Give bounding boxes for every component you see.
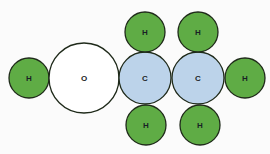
atom-label: H [195, 28, 201, 37]
atom-h-right: H [225, 58, 265, 98]
atom-label: H [242, 74, 248, 83]
atom-h-c2-bottom: H [180, 105, 220, 145]
atom-c2: C [172, 52, 224, 104]
atom-label: O [81, 74, 87, 83]
atom-label: H [26, 74, 32, 83]
atom-label: C [142, 74, 148, 83]
atom-h-c2-top: H [178, 12, 218, 52]
atom-h-left: H [9, 58, 49, 98]
atom-h-c1-bottom: H [126, 105, 166, 145]
atom-label: H [142, 28, 148, 37]
atom-label: H [197, 121, 203, 130]
atom-o: O [49, 43, 119, 113]
molecule-diagram: HOCCHHHHH [0, 0, 270, 154]
atom-label: C [195, 74, 201, 83]
atom-h-c1-top: H [125, 12, 165, 52]
ethanol-space-filling-model: HOCCHHHHH [0, 0, 270, 154]
atom-label: H [143, 121, 149, 130]
atom-c1: C [119, 52, 171, 104]
